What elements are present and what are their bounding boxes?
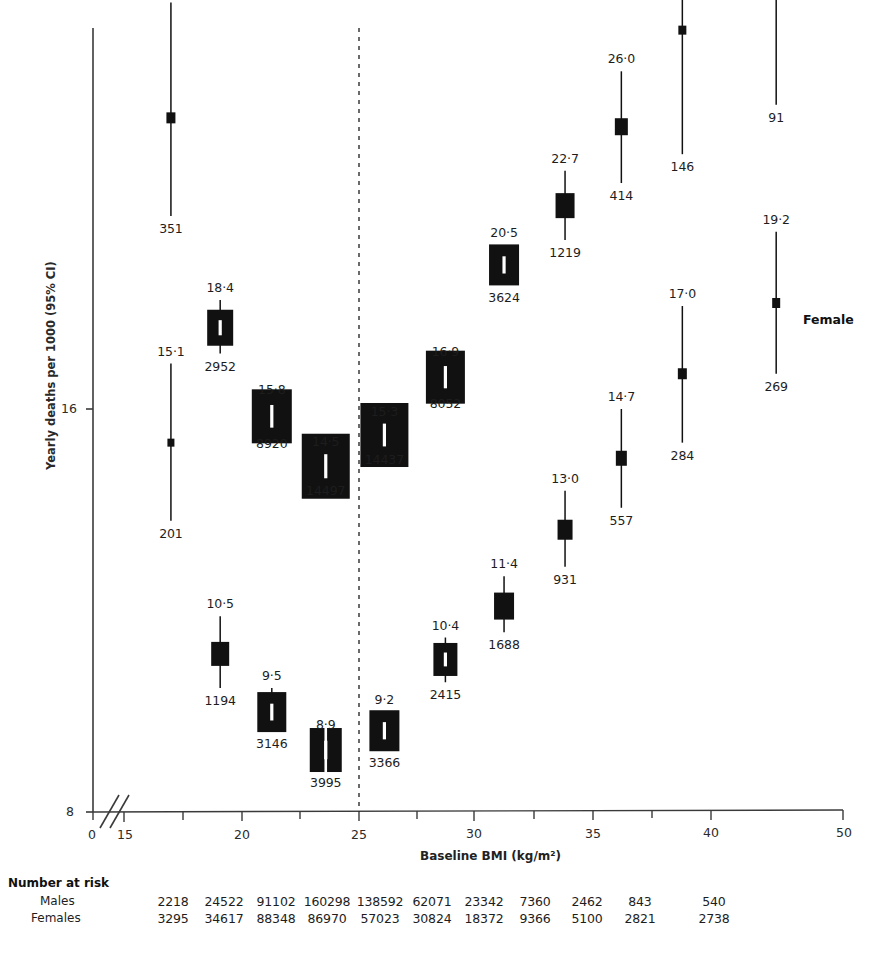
deaths-label-males-8: 414 xyxy=(610,188,634,203)
datapoint-females-5 xyxy=(433,638,457,683)
deaths-label-males-2: 8920 xyxy=(256,436,287,451)
deaths-label-females-9: 284 xyxy=(671,448,695,463)
datapoint-males-2 xyxy=(252,389,292,443)
risk-value-males-3: 160298 xyxy=(304,894,351,909)
risk-value-males-5: 62071 xyxy=(413,894,452,909)
forest-plot-figure: Yearly deaths per 1000 (95% CI) Baseline… xyxy=(0,0,874,955)
risk-value-females-6: 18372 xyxy=(465,911,504,926)
deaths-label-females-5: 2415 xyxy=(430,687,461,702)
deaths-label-males-10: 91 xyxy=(768,110,784,125)
estimate-label-males-5: 16·9 xyxy=(432,344,459,359)
risk-row-label-males: Males xyxy=(40,894,75,908)
estimate-label-females-7: 13·0 xyxy=(551,471,578,486)
deaths-label-males-3: 14497 xyxy=(306,483,345,498)
datapoint-females-4 xyxy=(369,710,399,751)
risk-value-males-10: 540 xyxy=(702,894,725,909)
x-axis-line xyxy=(93,810,843,812)
risk-value-males-8: 2462 xyxy=(571,894,602,909)
datapoint-females-8 xyxy=(616,409,627,508)
risk-value-females-9: 2821 xyxy=(624,911,655,926)
risk-value-females-5: 30824 xyxy=(413,911,452,926)
deaths-label-females-0: 201 xyxy=(159,526,183,541)
datapoint-females-9 xyxy=(678,306,687,443)
plot-canvas xyxy=(0,0,874,955)
risk-value-females-1: 34617 xyxy=(205,911,244,926)
x-tick-label-35: 35 xyxy=(585,826,601,841)
x-tick-label-50: 50 xyxy=(836,825,852,840)
estimate-label-females-0: 15·1 xyxy=(157,344,184,359)
estimate-label-males-2: 15·8 xyxy=(258,382,285,397)
estimate-label-males-4: 15·3 xyxy=(371,404,398,419)
deaths-label-males-1: 2952 xyxy=(204,359,235,374)
estimate-label-females-1: 10·5 xyxy=(206,596,233,611)
datapoint-males-9 xyxy=(678,0,686,154)
deaths-label-males-7: 1219 xyxy=(549,245,580,260)
datapoint-males-8 xyxy=(615,71,628,183)
deaths-label-females-10: 269 xyxy=(764,379,788,394)
estimate-label-males-3: 14·5 xyxy=(312,434,339,449)
risk-value-females-3: 86970 xyxy=(308,911,347,926)
x-tick-label-25: 25 xyxy=(351,827,367,842)
x-tick-label-20: 20 xyxy=(234,827,250,842)
risk-value-females-4: 57023 xyxy=(361,911,400,926)
deaths-label-males-5: 8052 xyxy=(430,396,461,411)
estimate-label-females-8: 14·7 xyxy=(608,389,635,404)
risk-value-males-0: 2218 xyxy=(157,894,188,909)
female-series-label: Female xyxy=(803,312,854,327)
deaths-label-females-2: 3146 xyxy=(256,736,287,751)
datapoint-males-6 xyxy=(489,244,519,285)
deaths-label-females-4: 3366 xyxy=(369,755,400,770)
risk-value-females-7: 9366 xyxy=(519,911,550,926)
estimate-label-females-5: 10·4 xyxy=(432,618,459,633)
x-tick-label-30: 30 xyxy=(466,826,482,841)
risk-value-males-6: 23342 xyxy=(465,894,504,909)
datapoint-males-0 xyxy=(166,2,175,216)
deaths-label-males-6: 3624 xyxy=(488,290,519,305)
deaths-label-males-9: 146 xyxy=(671,159,695,174)
datapoint-females-3 xyxy=(310,728,342,772)
estimate-label-males-8: 26·0 xyxy=(608,51,635,66)
x-tick-label-40: 40 xyxy=(703,825,719,840)
risk-value-females-0: 3295 xyxy=(157,911,188,926)
x-axis-title: Baseline BMI (kg/m²) xyxy=(420,849,561,863)
datapoint-females-1 xyxy=(211,616,229,688)
risk-table-title: Number at risk xyxy=(8,876,109,890)
deaths-label-females-8: 557 xyxy=(610,513,634,528)
risk-row-label-females: Females xyxy=(31,911,81,925)
risk-value-males-9: 843 xyxy=(628,894,651,909)
risk-value-males-7: 7360 xyxy=(519,894,550,909)
risk-value-females-10: 2738 xyxy=(698,911,729,926)
datapoint-females-2 xyxy=(257,688,286,732)
y-axis-title: Yearly deaths per 1000 (95% CI) xyxy=(44,261,58,470)
deaths-label-females-1: 1194 xyxy=(204,693,235,708)
deaths-label-females-6: 1688 xyxy=(488,637,519,652)
risk-value-females-8: 5100 xyxy=(571,911,602,926)
estimate-label-females-4: 9·2 xyxy=(375,692,395,707)
datapoint-males-7 xyxy=(556,171,575,240)
risk-value-males-4: 138592 xyxy=(357,894,404,909)
estimate-label-females-2: 9·5 xyxy=(262,668,282,683)
y-tick-label-16: 16 xyxy=(61,401,77,416)
estimate-label-males-7: 22·7 xyxy=(551,151,578,166)
datapoint-females-7 xyxy=(558,491,573,567)
estimate-label-females-9: 17·0 xyxy=(669,286,696,301)
risk-value-males-1: 24522 xyxy=(205,894,244,909)
datapoint-females-10 xyxy=(772,232,780,374)
datapoint-males-1 xyxy=(207,300,233,354)
risk-value-males-2: 91102 xyxy=(257,894,296,909)
estimate-label-females-3: 8·9 xyxy=(316,717,336,732)
deaths-label-females-3: 3995 xyxy=(310,775,341,790)
estimate-label-males-1: 18·4 xyxy=(206,280,233,295)
datapoint-females-6 xyxy=(494,576,514,632)
deaths-label-males-0: 351 xyxy=(159,221,183,236)
deaths-label-females-7: 931 xyxy=(553,572,577,587)
datapoint-females-0 xyxy=(167,364,174,521)
estimate-label-females-6: 11·4 xyxy=(490,556,517,571)
x-tick-label-15: 15 xyxy=(117,827,133,842)
deaths-label-males-4: 14437 xyxy=(365,452,404,467)
estimate-label-males-6: 20·5 xyxy=(490,225,517,240)
x-tick-label-0: 0 xyxy=(88,827,96,842)
estimate-label-females-10: 19·2 xyxy=(762,212,789,227)
y-tick-label-8: 8 xyxy=(66,804,74,819)
risk-value-females-2: 88348 xyxy=(257,911,296,926)
